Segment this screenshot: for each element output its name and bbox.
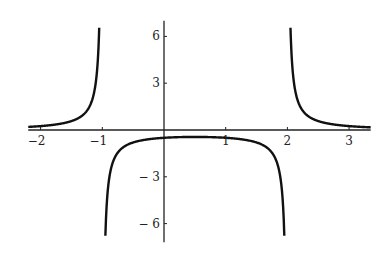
x-tick-label: 3: [345, 134, 353, 148]
x-tick-label: 1: [222, 134, 230, 148]
x-tick-label: −1: [89, 134, 107, 148]
y-tick-label: − 3: [138, 170, 160, 184]
function-plot: −2−112363− 3− 6: [0, 0, 390, 253]
y-tick-label: 3: [152, 76, 160, 90]
curves: [28, 28, 370, 236]
y-tick-label: 6: [152, 29, 160, 43]
left-branch-curve: [28, 28, 99, 127]
y-tick-label: − 6: [138, 217, 160, 231]
x-tick-label: −2: [28, 134, 46, 148]
x-tick-label: 2: [284, 134, 292, 148]
middle-branch-curve: [105, 137, 284, 236]
right-branch-curve: [290, 28, 370, 128]
axes: [28, 21, 370, 243]
